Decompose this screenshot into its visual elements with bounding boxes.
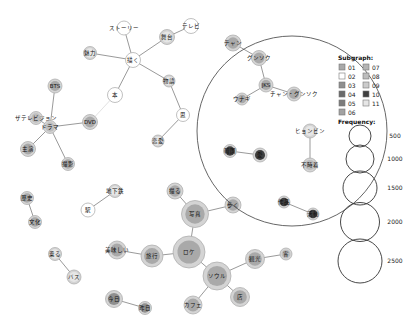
node-label: 愛 xyxy=(257,151,263,159)
node-label: 美味しい xyxy=(105,246,129,254)
node-label: 客 xyxy=(283,250,289,258)
network-node[interactable]: 物語 xyxy=(163,75,175,87)
frequency-circle xyxy=(349,125,371,147)
network-node[interactable]: 乗る xyxy=(49,248,62,261)
node-label: ウナギ xyxy=(233,95,251,102)
subgraph-id: 07 xyxy=(372,64,380,71)
node-label: 韓国 xyxy=(224,147,236,155)
subgraph-legend-item: 06 xyxy=(339,109,356,116)
network-node[interactable]: 思 xyxy=(177,109,190,122)
frequency-value: 1500 xyxy=(387,184,402,191)
subgraph-id: 06 xyxy=(348,109,356,116)
node-label: 恋愛 xyxy=(152,137,164,145)
node-label: 主演 xyxy=(22,145,34,153)
network-node[interactable]: 今日 xyxy=(106,291,123,308)
subgraph-swatch xyxy=(339,109,345,115)
node-label: 駅 xyxy=(85,207,91,214)
network-node[interactable]: 韓国 xyxy=(224,145,237,158)
node-label: 作品 xyxy=(278,198,290,206)
network-node[interactable]: 舞台 xyxy=(160,30,175,45)
node-label: 不時着 xyxy=(301,161,319,169)
network-node[interactable]: 不時着 xyxy=(301,158,319,172)
subgraph-legend-item: 09 xyxy=(363,82,380,89)
node-label: DVD xyxy=(84,119,96,125)
subgraph-swatch xyxy=(339,64,345,70)
node-label: 歴史 xyxy=(21,194,33,202)
network-node[interactable]: 駅 xyxy=(81,203,95,217)
network-node[interactable]: 写真 xyxy=(182,201,209,228)
network-node[interactable]: 文化 xyxy=(29,216,42,229)
network-node[interactable]: 観光 xyxy=(246,250,265,269)
network-node[interactable]: バス xyxy=(67,270,81,284)
node-label: グンソク xyxy=(247,54,271,62)
network-node[interactable]: ロケ xyxy=(173,236,205,268)
network-node[interactable]: 旅行 xyxy=(141,245,163,267)
subgraph-legend-title: Subgraph: xyxy=(338,54,373,62)
subgraph-legend-item: 05 xyxy=(339,100,356,107)
network-node[interactable]: 撮影 xyxy=(62,158,75,171)
network-node[interactable]: カフェ xyxy=(184,296,202,314)
node-label: ソウル xyxy=(208,272,226,279)
frequency-value: 1000 xyxy=(387,155,402,162)
frequency-legend-title: Frequency: xyxy=(338,118,376,126)
network-node[interactable]: 美味しい xyxy=(105,241,129,259)
network-node[interactable]: 主演 xyxy=(21,142,36,157)
network-node[interactable]: 客 xyxy=(280,248,292,260)
network-node[interactable]: 作品 xyxy=(278,196,290,208)
network-node[interactable]: 描く xyxy=(126,53,141,68)
node-label: チャン xyxy=(224,40,242,46)
network-node[interactable]: テレビ xyxy=(182,19,200,34)
network-node[interactable]: 歴史 xyxy=(21,192,34,205)
subgraph-id: 11 xyxy=(372,100,380,107)
node-label: バス xyxy=(68,274,80,280)
subgraph-swatch xyxy=(363,82,369,88)
subgraph-legend-items: 0102030405060708091011 xyxy=(339,64,380,116)
frequency-legend-items: 5001000150020002500 xyxy=(338,125,403,283)
subgraph-swatch xyxy=(363,91,369,97)
nodes-layer: ストーリーテレビ舞台魅力描く物語本思恋愛BTSザテレビジョンドラマDVD主演撮影… xyxy=(15,19,325,315)
subgraph-id: 08 xyxy=(372,73,380,80)
network-node[interactable]: 店 xyxy=(231,288,250,307)
frequency-circle xyxy=(346,145,374,173)
network-node[interactable]: 本 xyxy=(108,88,123,103)
network-node[interactable]: 活動 xyxy=(307,208,319,220)
subgraph-legend-item: 04 xyxy=(339,91,356,98)
node-label: 魅力 xyxy=(84,49,96,57)
network-node[interactable]: ヒョンビン xyxy=(295,124,325,138)
subgraph-legend-item: 03 xyxy=(339,82,356,89)
network-node[interactable]: DVD xyxy=(83,115,98,130)
subgraph-id: 03 xyxy=(348,82,356,89)
node-label: 舞台 xyxy=(161,33,173,41)
network-node[interactable]: JKS xyxy=(259,78,273,92)
network-node[interactable]: 撮る xyxy=(167,183,183,199)
node-label: 描く xyxy=(127,56,139,64)
subgraph-swatch xyxy=(339,100,345,106)
node-label: ストーリー xyxy=(109,25,139,31)
network-node[interactable]: 恋愛 xyxy=(152,135,164,147)
subgraph-legend-item: 07 xyxy=(363,64,380,71)
network-node[interactable]: BTS xyxy=(48,79,62,93)
node-label: 撮る xyxy=(169,187,181,194)
frequency-circle xyxy=(343,171,377,205)
node-label: 思 xyxy=(180,112,186,118)
subgraph-legend-item: 08 xyxy=(363,73,380,80)
subgraph-id: 05 xyxy=(348,100,356,107)
co-occurrence-network: ストーリーテレビ舞台魅力描く物語本思恋愛BTSザテレビジョンドラマDVD主演撮影… xyxy=(0,0,412,331)
subgraph-id: 02 xyxy=(348,73,356,80)
frequency-value: 500 xyxy=(389,132,401,139)
node-label: ヒョンビン xyxy=(295,127,325,135)
frequency-circle xyxy=(338,239,382,283)
subgraph-swatch xyxy=(339,91,345,97)
network-node[interactable]: ストーリー xyxy=(109,21,139,35)
network-node[interactable]: 愛 xyxy=(253,148,267,162)
network-node[interactable]: 魅力 xyxy=(84,47,97,60)
network-node[interactable]: 昨日 xyxy=(139,302,152,315)
subgraph-id: 04 xyxy=(348,91,356,98)
network-node[interactable]: チャン xyxy=(224,35,242,51)
subgraph-swatch xyxy=(339,73,345,79)
subgraph-legend-item: 01 xyxy=(339,64,356,71)
node-label: 撮影 xyxy=(62,160,74,168)
network-node[interactable]: ソウル xyxy=(203,262,231,290)
node-label: ロケ xyxy=(183,249,195,255)
subgraph-legend-item: 02 xyxy=(339,73,356,80)
